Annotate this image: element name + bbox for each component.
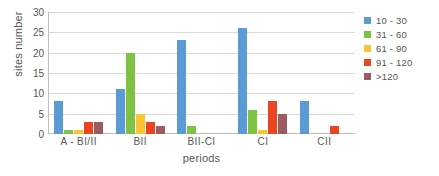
bar-chart: sites number 051015202530 A - BI/IIBIIBI… <box>0 0 439 176</box>
y-tick-label: 20 <box>22 47 44 58</box>
y-tick-label: 0 <box>22 129 44 140</box>
bar-group <box>109 12 170 134</box>
x-tick-label: BII <box>109 136 170 152</box>
bar-slot <box>340 12 349 134</box>
legend-swatch-icon <box>364 31 371 38</box>
legend-item[interactable]: >120 <box>364 70 436 83</box>
bar[interactable] <box>54 101 63 134</box>
bar-slot <box>116 12 125 134</box>
bar-group <box>294 12 355 134</box>
bar-slot <box>238 12 247 134</box>
bar-group <box>171 12 232 134</box>
bar-slot <box>84 12 93 134</box>
bar[interactable] <box>116 89 125 134</box>
legend-label: 91 - 120 <box>376 57 412 68</box>
y-tick-label: 15 <box>22 68 44 79</box>
bar[interactable] <box>248 110 257 134</box>
bar-slot <box>268 12 277 134</box>
legend-label: 31 - 60 <box>376 29 407 40</box>
bar[interactable] <box>278 114 287 134</box>
bar[interactable] <box>187 126 196 134</box>
bar-slot <box>330 12 339 134</box>
x-axis-tick-labels: A - BI/IIBIIBII-CICICII <box>48 136 355 152</box>
legend-label: 10 - 30 <box>376 15 407 26</box>
bar[interactable] <box>268 101 277 134</box>
bar-slot <box>187 12 196 134</box>
bar-slot <box>197 12 206 134</box>
y-tick-label: 25 <box>22 27 44 38</box>
bar-slot <box>248 12 257 134</box>
legend-swatch-icon <box>364 59 371 66</box>
bar-slot <box>300 12 309 134</box>
bar-group <box>232 12 293 134</box>
y-tick-label: 10 <box>22 88 44 99</box>
legend-label: 61 - 90 <box>376 43 407 54</box>
plot-area <box>48 12 355 134</box>
bar-slot <box>217 12 226 134</box>
bar-slot <box>278 12 287 134</box>
bar-slot <box>156 12 165 134</box>
bar-slot <box>126 12 135 134</box>
x-tick-label: A - BI/II <box>48 136 109 152</box>
legend-swatch-icon <box>364 73 371 80</box>
bar[interactable] <box>84 122 93 134</box>
legend: 10 - 3031 - 6061 - 9091 - 120>120 <box>364 14 436 84</box>
legend-item[interactable]: 61 - 90 <box>364 42 436 55</box>
bar[interactable] <box>330 126 339 134</box>
bar-groups <box>48 12 355 134</box>
bar-slot <box>320 12 329 134</box>
bar[interactable] <box>156 126 165 134</box>
x-tick-label: CII <box>294 136 355 152</box>
bar[interactable] <box>238 28 247 134</box>
bar[interactable] <box>300 101 309 134</box>
bar-slot <box>136 12 145 134</box>
legend-swatch-icon <box>364 45 371 52</box>
bar-slot <box>64 12 73 134</box>
x-tick-label: BII-CI <box>171 136 232 152</box>
bar-slot <box>207 12 216 134</box>
bar[interactable] <box>258 130 267 134</box>
y-tick-label: 5 <box>22 108 44 119</box>
x-axis-title: periods <box>48 152 355 164</box>
legend-item[interactable]: 10 - 30 <box>364 14 436 27</box>
bar[interactable] <box>64 130 73 134</box>
bar-group <box>48 12 109 134</box>
y-tick-label: 30 <box>22 7 44 18</box>
x-tick-label: CI <box>232 136 293 152</box>
bar[interactable] <box>146 122 155 134</box>
legend-swatch-icon <box>364 17 371 24</box>
bar[interactable] <box>136 114 145 134</box>
bar-slot <box>177 12 186 134</box>
legend-item[interactable]: 91 - 120 <box>364 56 436 69</box>
bar-slot <box>310 12 319 134</box>
bar-slot <box>146 12 155 134</box>
legend-item[interactable]: 31 - 60 <box>364 28 436 41</box>
bar-slot <box>74 12 83 134</box>
bar[interactable] <box>177 40 186 134</box>
bar[interactable] <box>74 130 83 134</box>
bar-slot <box>258 12 267 134</box>
bar[interactable] <box>94 122 103 134</box>
y-axis-tick-labels: 051015202530 <box>22 12 44 134</box>
legend-label: >120 <box>376 71 398 82</box>
bar[interactable] <box>126 53 135 134</box>
bar-slot <box>94 12 103 134</box>
bar-slot <box>54 12 63 134</box>
